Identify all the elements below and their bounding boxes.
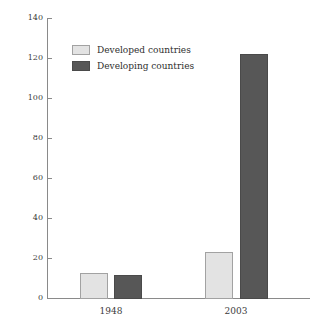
x-tick-label-2003: 2003 <box>196 306 276 316</box>
y-tick-label-0: 0 <box>3 294 43 302</box>
legend-item-developed: Developed countries <box>72 43 194 57</box>
y-tick-label-100: 100 <box>3 94 43 102</box>
legend: Developed countries Developing countries <box>72 43 194 75</box>
legend-swatch-icon-developed <box>72 45 90 55</box>
y-tick-label-60: 60 <box>3 174 43 182</box>
y-tick-0 <box>48 298 52 299</box>
y-tick-label-120: 120 <box>3 54 43 62</box>
y-tick-40 <box>48 218 52 219</box>
y-tick-20 <box>48 258 52 259</box>
legend-label-developed: Developed countries <box>97 45 191 55</box>
y-tick-120 <box>48 58 52 59</box>
x-tick-label-1948: 1948 <box>71 306 151 316</box>
y-tick-label-20: 20 <box>3 254 43 262</box>
bar-chart: 140 120 100 80 60 40 20 0 1948 2003 Deve… <box>0 0 333 332</box>
y-tick-label-80: 80 <box>3 134 43 142</box>
y-tick-60 <box>48 178 52 179</box>
y-axis-line <box>47 18 48 299</box>
legend-item-developing: Developing countries <box>72 59 194 73</box>
bar-2003-developing <box>240 54 268 299</box>
bar-1948-developed <box>80 273 108 299</box>
bar-2003-developed <box>205 252 233 299</box>
legend-swatch-icon-developing <box>72 61 90 71</box>
legend-label-developing: Developing countries <box>97 61 194 71</box>
y-tick-100 <box>48 98 52 99</box>
y-tick-label-40: 40 <box>3 214 43 222</box>
y-tick-80 <box>48 138 52 139</box>
y-tick-label-140: 140 <box>3 14 43 22</box>
y-tick-140 <box>48 18 52 19</box>
bar-1948-developing <box>114 275 142 299</box>
